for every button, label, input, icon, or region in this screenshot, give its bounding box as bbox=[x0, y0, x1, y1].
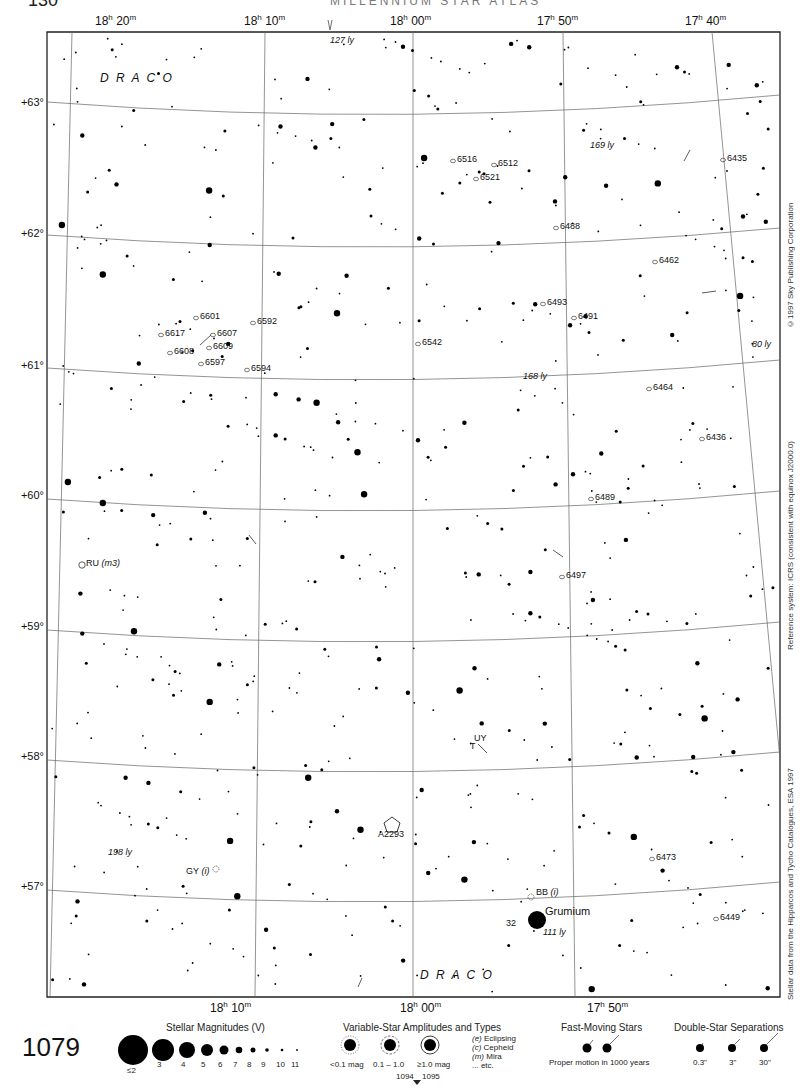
star bbox=[370, 215, 373, 218]
star bbox=[342, 176, 344, 178]
star bbox=[434, 105, 436, 107]
star bbox=[509, 42, 513, 46]
star bbox=[256, 427, 258, 429]
star bbox=[714, 177, 716, 179]
star bbox=[355, 379, 357, 381]
star bbox=[640, 695, 642, 697]
named-object-label: T bbox=[470, 741, 476, 751]
galaxies bbox=[159, 158, 726, 921]
star bbox=[313, 145, 317, 149]
star bbox=[309, 953, 312, 956]
constellation-label: D R A C O bbox=[100, 71, 174, 85]
star bbox=[692, 902, 694, 904]
star bbox=[618, 944, 621, 947]
magnitude-label: 3 bbox=[157, 1060, 161, 1069]
star bbox=[103, 643, 105, 645]
star bbox=[688, 73, 690, 75]
star bbox=[245, 397, 247, 399]
star bbox=[523, 739, 525, 741]
star bbox=[69, 978, 71, 980]
star bbox=[158, 324, 160, 326]
magnitude-label: 6 bbox=[218, 1060, 222, 1069]
star bbox=[347, 438, 350, 441]
star bbox=[54, 775, 57, 778]
star bbox=[568, 758, 571, 761]
chevron-down-icon[interactable] bbox=[413, 1080, 421, 1085]
star bbox=[234, 893, 240, 899]
star-chart-map[interactable] bbox=[0, 0, 805, 1089]
star bbox=[126, 648, 128, 650]
star bbox=[530, 457, 532, 459]
star bbox=[334, 725, 336, 727]
variable-star-ru bbox=[79, 562, 85, 568]
star bbox=[144, 144, 146, 146]
star bbox=[338, 147, 340, 149]
star bbox=[536, 759, 538, 761]
ra-tick-marker bbox=[328, 20, 332, 30]
star bbox=[212, 539, 214, 541]
star bbox=[466, 174, 468, 176]
star bbox=[649, 707, 652, 710]
star bbox=[185, 838, 187, 840]
star bbox=[461, 876, 467, 882]
data-source-note: Stellar data from the Hipparcos and Tych… bbox=[786, 700, 795, 1000]
star bbox=[427, 456, 430, 459]
star bbox=[80, 631, 84, 635]
star bbox=[51, 728, 53, 730]
star bbox=[456, 687, 462, 693]
star bbox=[345, 865, 347, 867]
star bbox=[193, 491, 195, 493]
star bbox=[299, 672, 301, 674]
star bbox=[685, 235, 687, 237]
star bbox=[621, 199, 623, 201]
star bbox=[239, 565, 241, 567]
star bbox=[311, 140, 313, 142]
star bbox=[63, 58, 65, 60]
star bbox=[199, 798, 201, 800]
star bbox=[309, 820, 312, 823]
named-object-label: A2293 bbox=[378, 829, 404, 839]
star bbox=[131, 628, 137, 634]
star bbox=[682, 926, 684, 928]
star bbox=[555, 360, 557, 362]
star bbox=[646, 952, 648, 954]
star bbox=[84, 239, 86, 241]
double-star-symbols bbox=[690, 1030, 800, 1055]
star bbox=[477, 572, 481, 576]
star bbox=[685, 622, 688, 625]
star bbox=[762, 588, 764, 590]
star bbox=[209, 943, 211, 945]
star bbox=[237, 712, 239, 714]
star bbox=[232, 948, 234, 950]
star bbox=[80, 133, 84, 137]
star bbox=[354, 449, 360, 455]
galaxy-icon bbox=[211, 333, 216, 337]
double-label-2: 30" bbox=[759, 1058, 771, 1067]
star bbox=[114, 182, 118, 186]
star bbox=[193, 56, 195, 58]
star bbox=[746, 575, 748, 577]
star bbox=[526, 888, 528, 890]
star bbox=[82, 982, 86, 986]
star bbox=[375, 423, 377, 425]
star bbox=[213, 338, 215, 340]
star bbox=[77, 101, 79, 103]
star bbox=[435, 868, 437, 870]
star bbox=[394, 567, 396, 569]
distance-label: 168 ly bbox=[523, 371, 547, 381]
star bbox=[596, 638, 598, 640]
star bbox=[459, 68, 461, 70]
star bbox=[714, 246, 716, 248]
adjacent-chart-right[interactable]: 1095 bbox=[422, 1072, 440, 1081]
amp-label-1: 0.1 – 1.0 bbox=[373, 1060, 404, 1069]
star bbox=[767, 127, 770, 130]
star bbox=[507, 944, 510, 947]
proper-motion-vectors bbox=[200, 150, 716, 987]
star bbox=[764, 220, 768, 224]
adjacent-chart-left[interactable]: 1094 bbox=[396, 1072, 414, 1081]
star bbox=[90, 737, 92, 739]
star bbox=[624, 538, 628, 542]
star bbox=[654, 148, 656, 150]
star bbox=[675, 65, 679, 69]
star bbox=[701, 705, 704, 708]
